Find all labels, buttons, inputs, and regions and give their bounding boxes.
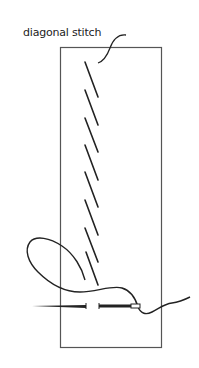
stitch bbox=[85, 90, 98, 125]
needle-eye bbox=[131, 304, 140, 308]
needle-shaft bbox=[99, 305, 132, 308]
diagonal-stitch-illustration: diagonal stitch bbox=[0, 0, 199, 368]
label-leader-line bbox=[98, 35, 126, 63]
stitch-label: diagonal stitch bbox=[23, 26, 101, 39]
stitch bbox=[85, 118, 98, 152]
fabric-frame bbox=[61, 48, 162, 348]
stitch bbox=[85, 172, 98, 207]
stitch bbox=[85, 145, 98, 180]
thread-loop bbox=[27, 238, 190, 314]
illustration-svg bbox=[0, 0, 199, 368]
needle-tip bbox=[32, 305, 86, 308]
diagonal-stitches bbox=[85, 62, 98, 285]
stitch bbox=[85, 62, 98, 97]
stitch bbox=[85, 200, 98, 235]
